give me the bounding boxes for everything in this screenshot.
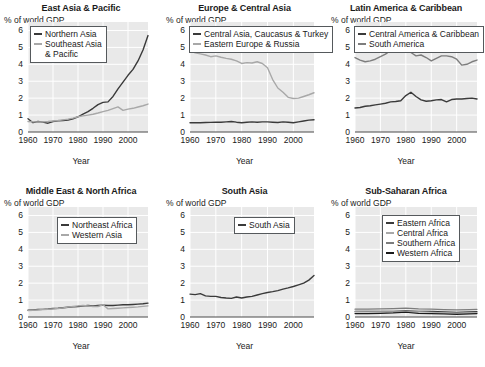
x-tick-label: 2000 <box>447 320 466 330</box>
legend-line-icon <box>358 43 366 45</box>
y-tick-label: 2 <box>180 278 185 288</box>
legend-item[interactable]: Northeast Africa <box>61 220 132 230</box>
legend-line-icon <box>34 33 42 35</box>
legend-label: South Asia <box>249 220 290 230</box>
x-tick-label: 1960 <box>181 320 200 330</box>
legend: Northeast AfricaWestern Asia <box>57 217 137 244</box>
x-tick-label: 1970 <box>44 135 63 145</box>
legend-label: Western Asia <box>72 230 122 240</box>
x-tick-label: 1960 <box>19 135 38 145</box>
y-tick-label: 3 <box>180 76 185 86</box>
y-tick-label: 4 <box>180 244 185 254</box>
legend-item[interactable]: Western Africa <box>386 248 455 258</box>
legend-line-icon <box>193 33 201 35</box>
legend-item[interactable]: Southeast Asia& Pacific <box>34 39 102 59</box>
legend-label: Eastern Europe & Russia <box>204 39 299 49</box>
legend: Central America & CaribbeanSouth America <box>354 26 484 53</box>
y-tick-label: 2 <box>345 278 350 288</box>
x-tick-label: 2000 <box>447 135 466 145</box>
y-tick-label: 4 <box>18 244 23 254</box>
legend-label-continuation: & Pacific <box>45 49 102 59</box>
legend-item[interactable]: Southern Africa <box>386 238 455 248</box>
legend-item[interactable]: South America <box>358 39 479 49</box>
legend-item[interactable]: Eastern Europe & Russia <box>193 39 328 49</box>
y-tick-label: 6 <box>345 25 350 35</box>
plot-area: 012345619601970198019902000 <box>0 183 162 367</box>
legend-line-icon <box>34 43 42 45</box>
x-axis-label: Year <box>327 156 485 166</box>
legend-label: Northeast Africa <box>72 220 132 230</box>
x-tick-label: 1970 <box>206 320 225 330</box>
y-tick-label: 6 <box>180 210 185 220</box>
x-tick-label: 1980 <box>69 320 88 330</box>
legend-item[interactable]: Northern Asia <box>34 29 102 39</box>
legend-label: South America <box>369 39 424 49</box>
legend-label: Southern Africa <box>397 238 455 248</box>
x-tick-label: 2000 <box>284 320 303 330</box>
chart-panel-6: Sub-Saharan Africa% of world GDP01234561… <box>327 183 485 367</box>
legend-item[interactable]: South Asia <box>238 220 290 230</box>
y-tick-label: 6 <box>345 210 350 220</box>
legend-item[interactable]: Central Asia, Caucasus & Turkey <box>193 29 328 39</box>
x-tick-label: 1990 <box>94 320 113 330</box>
x-tick-label: 1990 <box>258 320 277 330</box>
y-tick-label: 5 <box>18 227 23 237</box>
legend-item[interactable]: Central Africa <box>386 228 455 238</box>
y-tick-label: 3 <box>18 76 23 86</box>
x-tick-label: 1980 <box>396 320 415 330</box>
x-tick-label: 1970 <box>44 320 63 330</box>
legend-label: Southeast Asia <box>45 39 102 49</box>
y-tick-label: 3 <box>180 261 185 271</box>
y-tick-label: 3 <box>18 261 23 271</box>
legend-item[interactable]: Western Asia <box>61 230 132 240</box>
y-tick-label: 5 <box>180 227 185 237</box>
x-tick-label: 1980 <box>69 135 88 145</box>
legend-label: Northern Asia <box>45 29 97 39</box>
x-tick-label: 1970 <box>371 320 390 330</box>
legend-line-icon <box>386 232 394 234</box>
y-tick-label: 1 <box>345 110 350 120</box>
x-tick-label: 2000 <box>119 320 138 330</box>
legend: Northern AsiaSoutheast Asia& Pacific <box>30 26 107 63</box>
y-tick-label: 6 <box>180 25 185 35</box>
legend: Eastern AfricaCentral AfricaSouthern Afr… <box>382 215 460 262</box>
x-axis-label: Year <box>0 341 162 351</box>
legend-label: Central Africa <box>397 228 448 238</box>
x-tick-label: 1990 <box>422 320 441 330</box>
y-tick-label: 5 <box>345 42 350 52</box>
legend-label: Western Africa <box>397 248 452 258</box>
plot-area: 012345619601970198019902000 <box>162 183 327 367</box>
y-tick-label: 1 <box>180 110 185 120</box>
y-tick-label: 1 <box>345 295 350 305</box>
legend-item[interactable]: Eastern Africa <box>386 218 455 228</box>
y-tick-label: 4 <box>345 59 350 69</box>
y-tick-label: 4 <box>180 59 185 69</box>
legend: Central Asia, Caucasus & TurkeyEastern E… <box>189 26 333 53</box>
y-tick-label: 1 <box>180 295 185 305</box>
legend-line-icon <box>238 224 246 226</box>
x-tick-label: 1960 <box>346 135 365 145</box>
x-tick-label: 1970 <box>206 135 225 145</box>
x-tick-label: 1990 <box>94 135 113 145</box>
plot-area: 012345619601970198019902000 <box>327 183 485 367</box>
x-tick-label: 1990 <box>422 135 441 145</box>
x-axis-label: Year <box>327 341 485 351</box>
y-tick-label: 2 <box>18 278 23 288</box>
legend-line-icon <box>358 33 366 35</box>
chart-panel-4: Middle East & North Africa% of world GDP… <box>0 183 162 367</box>
y-tick-label: 4 <box>345 244 350 254</box>
x-axis-label: Year <box>162 341 327 351</box>
legend-line-icon <box>386 242 394 244</box>
x-tick-label: 1980 <box>232 320 251 330</box>
legend-line-icon <box>61 224 69 226</box>
legend-label: Eastern Africa <box>397 218 450 228</box>
chart-grid: East Asia & Pacific% of world GDP0123456… <box>0 0 485 367</box>
x-tick-label: 1980 <box>232 135 251 145</box>
y-tick-label: 2 <box>345 93 350 103</box>
legend-item[interactable]: Central America & Caribbean <box>358 29 479 39</box>
x-tick-label: 1970 <box>371 135 390 145</box>
y-tick-label: 1 <box>18 110 23 120</box>
x-tick-label: 2000 <box>284 135 303 145</box>
y-tick-label: 3 <box>345 261 350 271</box>
chart-panel-3: Latin America & Caribbean% of world GDP0… <box>327 0 485 183</box>
